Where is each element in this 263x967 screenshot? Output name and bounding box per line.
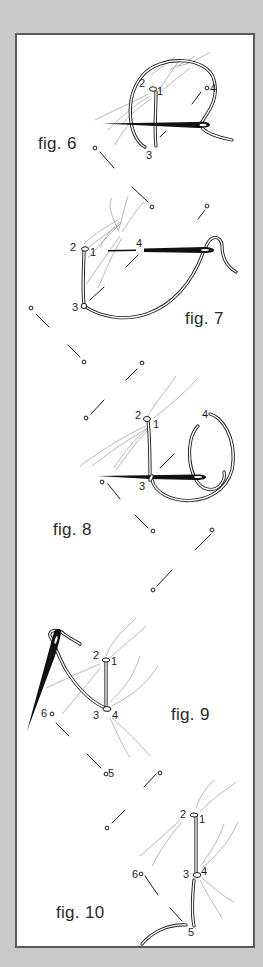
fig9-point-5: 5 [108,768,114,779]
fig8-point-3: 3 [139,481,145,492]
fig7-point-1: 1 [90,247,96,258]
fig6-point-1: 1 [157,86,163,97]
fig6-point-3: 3 [146,150,152,161]
figure-8-label: fig. 8 [53,521,92,538]
fig8-point-2: 2 [135,410,141,421]
fig9-point-2: 2 [93,650,99,661]
figure-9-label: fig. 9 [171,706,210,723]
fig10-point-2: 2 [180,809,186,820]
figure-10 [105,780,238,944]
fig9-point-6: 6 [41,708,47,719]
fig8-point-1: 1 [153,419,159,430]
figure-9 [27,618,162,787]
fig7-point-3: 3 [72,302,78,313]
fig9-point-4: 4 [112,710,118,721]
fig10-point-5: 5 [188,927,194,938]
fig7-point-4: 4 [136,238,142,249]
figure-8 [80,376,233,592]
fig9-point-1: 1 [111,656,117,667]
fig7-point-2: 2 [70,242,76,253]
figure-10-label: fig. 10 [56,904,104,921]
fig10-point-1: 1 [199,814,205,825]
fig10-point-4: 4 [201,866,207,877]
fig9-point-3: 3 [93,710,99,721]
fig8-point-4: 4 [202,409,208,420]
figure-6 [93,52,232,219]
fig6-point-2: 2 [139,78,145,89]
fig10-point-3: 3 [183,869,189,880]
fig6-point-4: 4 [210,83,216,94]
figure-6-label: fig. 6 [38,135,77,152]
figure-7 [29,196,236,380]
figure-7-label: fig. 7 [185,310,224,327]
fig10-point-6: 6 [132,869,138,880]
